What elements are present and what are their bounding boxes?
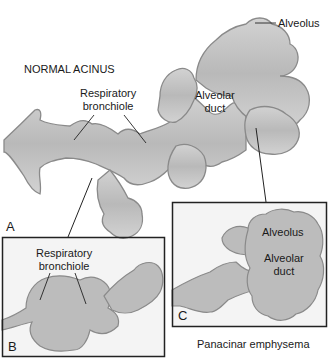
panel-letter-b: B (8, 340, 17, 353)
label-line: Alveolar (264, 252, 304, 265)
normal-acinus-title: NORMAL ACINUS (24, 63, 115, 76)
alveolus-label-a: Alveolus (278, 17, 320, 30)
label-line: duct (264, 265, 304, 278)
panel-letter-a: A (6, 220, 15, 233)
acinus-illustration (0, 0, 330, 362)
panel-letter-c: C (178, 309, 187, 322)
panacinar-caption: Panacinar emphysema (197, 338, 310, 351)
label-line: Respiratory (80, 87, 136, 100)
alveolus-label-c: Alveolus (262, 226, 304, 239)
label-line: duct (195, 102, 235, 115)
label-line: Respiratory (36, 247, 92, 260)
alveolar-duct-label-c: Alveolar duct (264, 252, 304, 278)
respiratory-bronchiole-label-b: Respiratory bronchiole (36, 247, 92, 273)
respiratory-bronchiole-label-a: Respiratory bronchiole (80, 87, 136, 113)
label-line: bronchiole (36, 260, 92, 273)
alveolar-duct-label-a: Alveolar duct (195, 89, 235, 115)
label-line: bronchiole (80, 100, 136, 113)
label-line: Alveolar (195, 89, 235, 102)
